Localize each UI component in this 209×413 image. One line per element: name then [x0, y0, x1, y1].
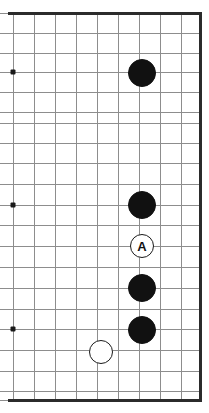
- stones-layer: A: [0, 0, 209, 413]
- stone-white-marked[interactable]: A: [130, 234, 154, 258]
- stone-label: A: [131, 235, 153, 257]
- stone-black[interactable]: [128, 316, 156, 344]
- go-board-diagram: A: [0, 0, 209, 413]
- stone-black[interactable]: [128, 59, 156, 87]
- stone-white[interactable]: [89, 340, 113, 364]
- stone-black[interactable]: [128, 191, 156, 219]
- stone-black[interactable]: [128, 274, 156, 302]
